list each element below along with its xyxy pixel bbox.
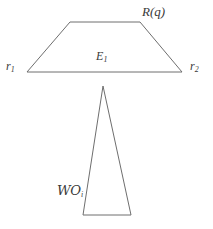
label-script-wo-subscript: i [81,190,83,199]
label-r-of-q: R(q) [142,5,165,18]
label-r-one-subscript: 1 [11,65,15,74]
geometry-figure [0,0,213,229]
label-r-two: r2 [190,60,199,74]
label-r-one: r1 [6,60,15,74]
label-r-two-base: r [190,59,195,73]
label-r-one-base: r [6,59,11,73]
label-script-wo-base: WO [57,183,81,198]
label-r-two-subscript: 2 [195,65,199,74]
label-r-of-q-close-paren: ) [161,4,165,19]
label-script-wo-i: WOi [57,184,83,199]
label-e-one: E1 [96,50,107,64]
figure-background [0,0,213,229]
label-e-one-subscript: 1 [103,55,107,64]
label-r-of-q-base: R [142,4,150,19]
